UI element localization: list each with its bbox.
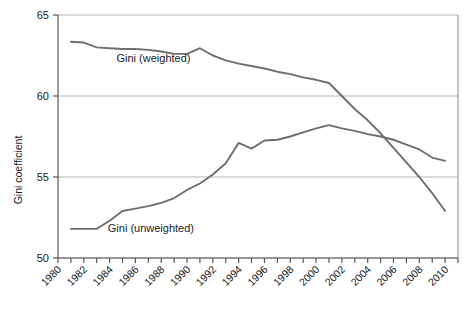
y-axis-title: Gini coefficient [12,136,24,205]
y-tick-label-50: 50 [37,252,49,264]
y-tick-label-55: 55 [37,171,49,183]
series-label-gini-unweighted: Gini (unweighted) [108,222,194,234]
y-tick-label-65: 65 [37,9,49,21]
series-label-gini-weighted: Gini (weighted) [116,52,190,64]
gini-coefficient-line-chart: 50556065 1980198219841986198819901992199… [0,0,475,313]
y-tick-label-60: 60 [37,90,49,102]
chart-canvas: 50556065 1980198219841986198819901992199… [0,0,475,313]
